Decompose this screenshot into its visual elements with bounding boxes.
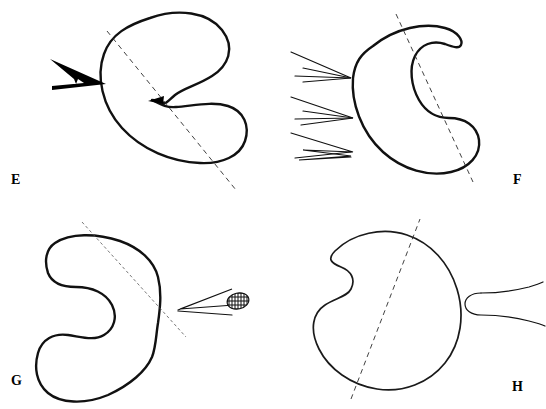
panel-label-g: G — [11, 374, 22, 388]
figure-plate: E F — [0, 0, 546, 409]
panel-f-outline — [353, 26, 479, 174]
panel-g: G — [0, 205, 273, 409]
panel-g-outline — [36, 235, 160, 401]
panel-label-e: E — [11, 173, 21, 187]
panel-h-section-line — [351, 219, 420, 399]
panel-f-wedge-arrow-3 — [291, 133, 353, 160]
panel-e: E — [0, 0, 273, 204]
panel-h: H — [273, 205, 546, 409]
panel-g-section-line — [82, 222, 186, 337]
panel-g-wedge-arrow-left-lower — [178, 311, 232, 315]
panel-h-outline — [313, 232, 461, 390]
panel-label-h: H — [512, 380, 523, 394]
panel-f-wedge-arrow-1 — [291, 52, 351, 78]
panel-e-solid-wedge-arrow — [50, 59, 106, 90]
panel-h-bulb-upper-tail — [481, 282, 543, 293]
panel-g-wedge-arrow-left-pointing — [178, 289, 234, 310]
panel-h-bulb-tapered-marker — [465, 293, 545, 326]
panel-f: F — [273, 0, 546, 204]
panel-label-f: F — [513, 173, 522, 187]
panel-e-section-line — [107, 31, 236, 190]
panel-e-outline — [101, 13, 247, 163]
panel-g-hatched-oval — [224, 287, 252, 315]
panel-f-wedge-arrow-2 — [291, 97, 353, 119]
